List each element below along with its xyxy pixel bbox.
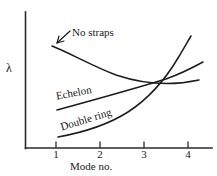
x-tick-label-3: 3 xyxy=(141,149,147,160)
series-label-no-straps: No straps xyxy=(72,27,114,38)
x-tick-label-1: 1 xyxy=(53,149,59,160)
x-tick-label-4: 4 xyxy=(185,149,191,160)
y-axis-label: λ xyxy=(6,62,12,74)
figure-container: λ Mode no. 1 2 3 4 No straps Echelon Dou… xyxy=(0,0,217,176)
x-tick-label-2: 2 xyxy=(97,149,103,160)
x-axis-label: Mode no. xyxy=(70,161,112,172)
curve-no-straps xyxy=(52,46,199,84)
